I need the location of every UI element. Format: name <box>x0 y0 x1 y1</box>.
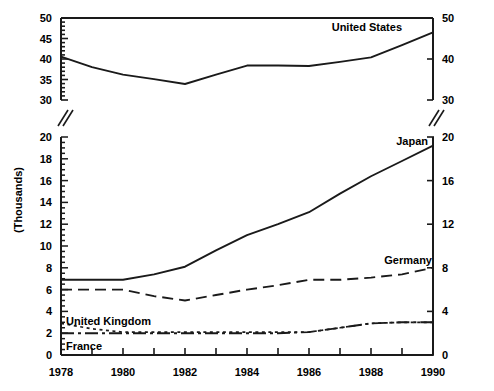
axis-break-slash <box>63 110 73 126</box>
upper-left-tick-label-45: 45 <box>40 33 52 45</box>
axis-break-slash <box>429 110 439 126</box>
axis-break-slash <box>434 110 444 126</box>
lower-left-tick-label-8: 8 <box>46 262 52 274</box>
line-chart: 3035404550304050024681012141618200481216… <box>0 0 494 391</box>
x-tick-label-1990: 1990 <box>421 366 445 378</box>
lower-left-tick-label-2: 2 <box>46 327 52 339</box>
upper-left-tick-label-30: 30 <box>40 94 52 106</box>
x-tick-label-1980: 1980 <box>111 366 135 378</box>
x-tick-label-1978: 1978 <box>49 366 73 378</box>
series-line-japan <box>61 146 433 280</box>
series-label-united-states: United States <box>332 21 402 33</box>
lower-left-tick-label-0: 0 <box>46 349 52 361</box>
lower-right-tick-label-12: 12 <box>442 218 454 230</box>
upper-left-tick-label-50: 50 <box>40 12 52 24</box>
chart-axes-layer <box>58 18 444 355</box>
lower-left-tick-label-14: 14 <box>40 196 53 208</box>
lower-left-tick-label-4: 4 <box>46 305 53 317</box>
series-label-germany: Germany <box>384 254 433 266</box>
lower-right-tick-label-16: 16 <box>442 175 454 187</box>
lower-left-tick-label-18: 18 <box>40 153 52 165</box>
upper-left-tick-label-40: 40 <box>40 53 52 65</box>
lower-left-tick-label-12: 12 <box>40 218 52 230</box>
axis-break-right <box>429 110 444 126</box>
upper-right-tick-label-40: 40 <box>442 53 454 65</box>
chart-labels-layer: 3035404550304050024681012141618200481216… <box>12 12 454 378</box>
x-tick-label-1984: 1984 <box>235 366 260 378</box>
upper-right-tick-label-30: 30 <box>442 94 454 106</box>
lower-right-tick-label-20: 20 <box>442 131 454 143</box>
upper-left-tick-label-35: 35 <box>40 74 52 86</box>
lower-left-tick-label-10: 10 <box>40 240 52 252</box>
y-axis-title: (Thousands) <box>12 167 24 233</box>
series-line-germany <box>61 268 433 301</box>
lower-left-tick-label-20: 20 <box>40 131 52 143</box>
series-line-united-states <box>61 32 433 84</box>
x-tick-label-1986: 1986 <box>297 366 321 378</box>
x-tick-label-1982: 1982 <box>173 366 197 378</box>
upper-right-tick-label-50: 50 <box>442 12 454 24</box>
lower-right-tick-label-0: 0 <box>442 349 448 361</box>
series-label-france: France <box>66 340 102 352</box>
axis-break-slash <box>58 110 68 126</box>
chart-series-layer <box>61 32 433 333</box>
lower-right-tick-label-8: 8 <box>442 262 448 274</box>
lower-right-tick-label-4: 4 <box>442 305 449 317</box>
lower-left-tick-label-6: 6 <box>46 284 52 296</box>
x-tick-label-1988: 1988 <box>359 366 383 378</box>
lower-left-tick-label-16: 16 <box>40 175 52 187</box>
series-label-japan: Japan <box>396 135 428 147</box>
chart-container: 3035404550304050024681012141618200481216… <box>0 0 494 391</box>
axis-break-left <box>58 110 73 126</box>
series-label-united-kingdom: United Kingdom <box>66 315 151 327</box>
